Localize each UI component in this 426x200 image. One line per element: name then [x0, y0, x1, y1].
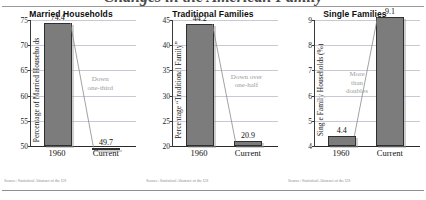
x-tick-label: Current: [235, 148, 261, 158]
bar: [44, 23, 72, 146]
y-tick-mark: [312, 70, 315, 71]
y-tick-label: 75: [21, 16, 29, 25]
x-axis: 1960 Current: [314, 148, 420, 161]
plot-area: 50556065707574.449.7Downone-third: [30, 20, 136, 147]
x-tick-label: 1960: [333, 148, 350, 158]
bar-value-label: 49.7: [99, 138, 113, 147]
charts-row: Married Households Percentage of Married…: [0, 8, 426, 188]
plot-area: 20253035404544.220.9Down overone-half: [172, 20, 278, 147]
y-tick-label: 60: [21, 91, 29, 100]
x-tick-label: Current: [93, 148, 119, 158]
x-tick-label: 1960: [49, 148, 66, 158]
bar-value-label: 4.4: [337, 126, 347, 135]
bar: [234, 141, 262, 146]
y-tick-label: 40: [163, 41, 171, 50]
y-tick-label: 50: [21, 142, 29, 151]
y-tick-label: 70: [21, 41, 29, 50]
x-tick-label: 1960: [191, 148, 208, 158]
chart-annotation-line: than: [346, 79, 368, 88]
gridline: [315, 20, 420, 21]
figure-root: Changes in the American Family Married H…: [0, 0, 426, 200]
y-tick-label: 7: [308, 66, 312, 75]
y-tick-label: 45: [163, 16, 171, 25]
chart-annotation-line: one-third: [87, 84, 113, 93]
chart-annotation-line: Down: [87, 75, 113, 84]
y-tick-label: 5: [308, 116, 312, 125]
y-tick-mark: [312, 121, 315, 122]
x-tick-label: Current: [377, 148, 403, 158]
gridline: [315, 121, 420, 122]
bar-value-label: 9.1: [385, 7, 395, 16]
y-tick-label: 20: [163, 142, 171, 151]
top-divider: [2, 6, 424, 7]
chart-panel-single-families: Single Families Single Family Households…: [284, 8, 426, 188]
x-axis: 1960 Current: [30, 148, 136, 161]
y-tick-label: 65: [21, 66, 29, 75]
chart-annotation-line: one-half: [231, 81, 262, 90]
y-tick-label: 30: [163, 91, 171, 100]
source-note: Source: Statistical Abstract of the US: [4, 178, 66, 183]
chart-annotation: Down overone-half: [231, 73, 262, 90]
y-tick-mark: [312, 20, 315, 21]
chart-title: Single Families: [284, 8, 426, 20]
y-tick-label: 8: [308, 41, 312, 50]
chart-panel-married-households: Married Households Percentage of Married…: [0, 8, 142, 188]
chart-annotation: Downone-third: [87, 75, 113, 92]
bottom-divider: [2, 190, 424, 191]
y-tick-mark: [312, 146, 315, 147]
plot-area-wrapper: Single Family Households (%) 4567894.49.…: [314, 20, 420, 160]
plot-area-wrapper: Percentage “Traditional Family” 20253035…: [172, 20, 278, 160]
gridline: [31, 20, 136, 21]
bar: [376, 17, 404, 146]
y-tick-label: 9: [308, 16, 312, 25]
y-tick-mark: [312, 45, 315, 46]
chart-annotation-line: More: [346, 70, 368, 79]
gridline: [315, 45, 420, 46]
y-tick-label: 6: [308, 91, 312, 100]
plot-area-wrapper: Percentage of Married Households 5055606…: [30, 20, 136, 160]
y-tick-label: 4: [308, 142, 312, 151]
bar-value-label: 74.4: [51, 13, 65, 22]
plot-area: 4567894.49.1Morethandoubles: [314, 20, 420, 147]
bar-value-label: 20.9: [241, 131, 255, 140]
y-tick-label: 25: [163, 116, 171, 125]
chart-annotation-line: doubles: [346, 87, 368, 96]
chart-annotation-line: Down over: [231, 73, 262, 82]
bar: [186, 24, 214, 146]
gridline: [173, 20, 278, 21]
source-note: Source: Statistical Abstract of the US: [288, 178, 350, 183]
bar-value-label: 44.2: [193, 14, 207, 23]
y-tick-label: 35: [163, 66, 171, 75]
chart-annotation: Morethandoubles: [346, 70, 368, 96]
bar: [328, 136, 356, 146]
chart-panel-traditional-families: Traditional Families Percentage “Traditi…: [142, 8, 284, 188]
x-axis: 1960 Current: [172, 148, 278, 161]
y-tick-mark: [312, 96, 315, 97]
y-tick-label: 55: [21, 116, 29, 125]
source-note: Source: Statistical Abstract of the US: [146, 178, 208, 183]
